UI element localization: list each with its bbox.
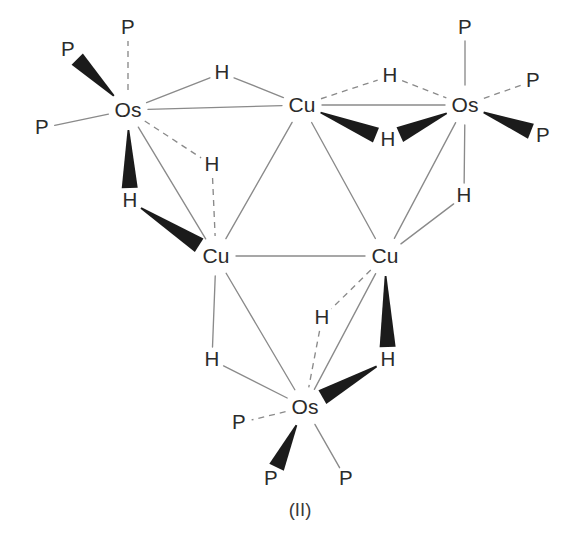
bond-wedge-os_bottom-p_b_mid	[269, 425, 297, 471]
bond-dashed-h_top_right-os_right	[402, 81, 446, 98]
bond-solid-os_left-h_top_left	[147, 78, 210, 103]
atom-label-p_r_upper: P	[526, 68, 540, 91]
atom-label-p_l_lower: P	[35, 115, 49, 138]
bond-solid-os_left-p_l_lower	[55, 114, 109, 125]
atom-label-cu_left: Cu	[202, 244, 229, 267]
atom-label-h_top_right: H	[382, 63, 397, 86]
atom-label-h_os_l_low: H	[122, 188, 137, 211]
atom-label-p_l_top: P	[121, 15, 135, 38]
bond-dashed-cu_top-h_top_right	[321, 80, 378, 99]
bond-dashed-h_bot_mid-os_bottom	[309, 331, 320, 388]
atom-label-cu_right: Cu	[371, 244, 398, 267]
bond-solid-cu_top-cu_left	[226, 122, 292, 238]
atom-label-os_left: Os	[114, 98, 141, 121]
bond-solid-os_right-h_right_mid	[464, 125, 465, 183]
atom-label-p_r_top: P	[458, 15, 472, 38]
atom-label-p_b_mid: P	[264, 466, 278, 489]
bond-dashed-os_bottom-p_b_left	[252, 412, 286, 420]
bond-wedge-h_os_l_low-cu_left	[140, 207, 203, 252]
atom-label-h_os_r_low: H	[380, 127, 395, 150]
atom-label-cu_top: Cu	[288, 93, 315, 116]
atom-label-p_b_left: P	[232, 410, 246, 433]
bond-dashed-h_mid_left-cu_left	[213, 178, 216, 236]
atom-label-h_bot_right: H	[380, 347, 395, 370]
bond-solid-os_left-cu_left	[138, 127, 205, 239]
figure-caption: (II)	[289, 499, 312, 520]
bond-wedge-os_left-h_os_l_low	[122, 130, 138, 188]
atom-label-os_right: Os	[451, 93, 478, 116]
bond-dashed-os_right-p_r_upper	[484, 85, 521, 98]
bond-wedge-h_bot_right-os_bottom	[318, 366, 377, 404]
atom-label-h_bot_mid: H	[314, 305, 329, 328]
bond-solid-cu_top-cu_right	[312, 123, 376, 239]
atom-label-h_right_mid: H	[456, 183, 471, 206]
atom-label-p_l_upper: P	[61, 37, 75, 60]
bond-solid-h_top_left-cu_top	[234, 78, 283, 98]
bond-wedge-cu_top-h_os_r_low	[320, 112, 379, 143]
atom-label-layer: OsOsOsCuCuCuPPPPPPPPPHHHHHHHHH	[35, 15, 550, 489]
bond-wedge-os_left-p_l_upper	[72, 54, 115, 97]
bond-wedge-os_right-p_r_lower	[483, 112, 534, 139]
bond-solid-cu_left-h_bot_left	[213, 276, 216, 347]
bond-solid-h_bot_left-os_bottom	[224, 366, 288, 398]
atom-label-h_top_left: H	[214, 60, 229, 83]
bond-wedge-cu_right-h_bot_right	[380, 276, 396, 347]
structure-figure: OsOsOsCuCuCuPPPPPPPPPHHHHHHHHH (II)	[0, 0, 575, 551]
atom-label-p_b_right: P	[339, 466, 353, 489]
atom-label-os_bottom: Os	[291, 395, 318, 418]
atom-label-h_bot_left: H	[204, 347, 219, 370]
bond-wedge-os_right-h_os_r_low	[397, 112, 448, 141]
atom-label-p_r_lower: P	[536, 123, 550, 146]
atom-label-h_mid_left: H	[204, 152, 219, 175]
molecular-structure-diagram: OsOsOsCuCuCuPPPPPPPPPHHHHHHHHH (II)	[0, 0, 575, 551]
bond-dashed-cu_right-h_bot_mid	[331, 270, 370, 309]
bond-solid-os_left-cu_top	[148, 106, 282, 110]
bond-solid-os_bottom-p_b_right	[315, 424, 340, 467]
